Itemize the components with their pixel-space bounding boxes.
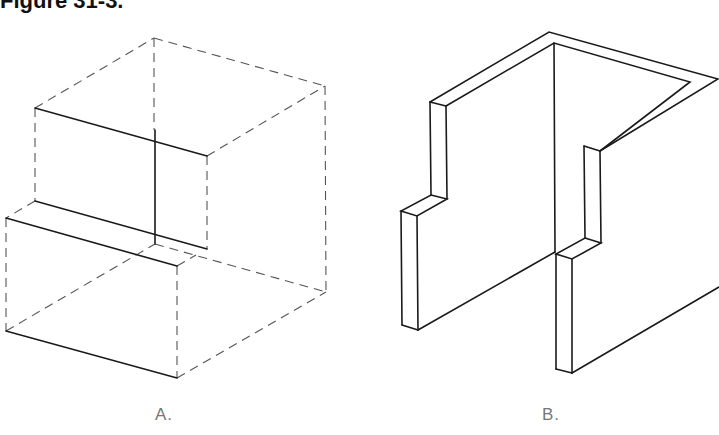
visible-lines-a [6, 108, 207, 378]
drawing-a [6, 38, 326, 378]
drawing-b [401, 32, 719, 373]
figure-canvas [0, 0, 719, 435]
hidden-lines-a [6, 38, 326, 378]
drawing-b-label: B. [542, 405, 560, 425]
drawing-a-label: A. [155, 405, 173, 425]
